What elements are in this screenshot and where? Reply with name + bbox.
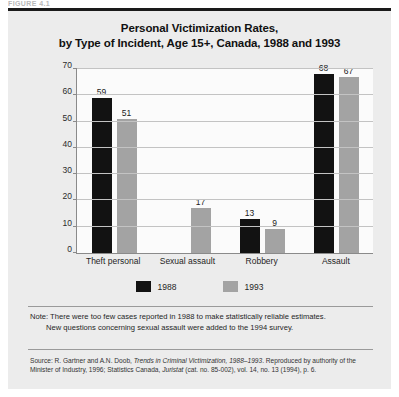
x-axis-label: Sexual assault [150,256,224,266]
chart-title: Personal Victimization Rates, by Type of… [8,21,391,51]
bar-1993[interactable]: 51 [117,119,137,253]
y-tick-mark [73,68,77,69]
chart-note: Note: There were too few cases reported … [30,312,374,333]
y-tick-mark [73,121,77,122]
y-tick-label: 30 [63,165,72,175]
y-tick-mark [73,252,77,253]
gridline [77,121,373,122]
x-axis-label: Assault [299,256,373,266]
chart-panel: Personal Victimization Rates, by Type of… [8,8,391,389]
y-tick-label: 50 [63,113,72,123]
y-tick-mark [73,94,77,95]
x-axis-label: Robbery [225,256,299,266]
chart-source: Source: R. Gartner and A.N. Doob, Trends… [30,356,378,374]
divider-above-note [28,306,373,307]
bar-value-label: 51 [122,108,131,118]
y-tick-label: 60 [63,86,72,96]
legend-item-1993[interactable]: 1993 [223,281,264,292]
gridline [77,68,373,69]
source-prefix: Source: R. Gartner and A.N. Doob, [30,357,134,364]
y-tick-label: 20 [63,191,72,201]
plot-area: Rate per 1000 population 5951171396867 0… [28,69,373,254]
source-suffix: (cat. no. 85-002), vol. 14, no. 13 (1994… [183,366,316,373]
y-tick-label: 40 [63,139,72,149]
legend-label: 1988 [158,282,177,292]
y-tick-mark [73,199,77,200]
bar-value-label: 59 [97,87,106,97]
y-tick-label: 10 [63,218,72,228]
figure-container: FIGURE 4.1 Personal Victimization Rates,… [0,0,399,397]
legend-item-1988[interactable]: 1988 [136,281,177,292]
bar-value-label: 9 [272,218,277,228]
gridline [77,199,373,200]
x-axis-labels: Theft personalSexual assaultRobberyAssau… [76,256,373,266]
legend-swatch [136,281,151,292]
bar-1993[interactable]: 9 [265,229,285,253]
bar-1993[interactable]: 17 [191,208,211,253]
source-title-2: Juristat [162,366,183,373]
gridline [77,147,373,148]
y-tick-mark [73,147,77,148]
figure-number-label: FIGURE 4.1 [8,0,50,6]
gridline [77,173,373,174]
chart-axes: 5951171396867 010203040506070 [76,69,373,254]
divider-above-source [28,349,373,350]
chart-note-line-1: Note: There were too few cases reported … [30,312,326,321]
x-axis-label: Theft personal [76,256,150,266]
legend-label: 1993 [245,282,264,292]
y-tick-label: 70 [63,60,72,70]
chart-title-line-2: by Type of Incident, Age 15+, Canada, 19… [8,36,391,51]
bar-value-label: 13 [245,208,254,218]
y-tick-mark [73,226,77,227]
chart-legend: 19881993 [8,281,391,292]
gridline [77,226,373,227]
legend-swatch [223,281,238,292]
bar-1988[interactable]: 13 [240,219,260,253]
y-tick-label: 0 [67,244,72,254]
y-tick-mark [73,173,77,174]
chart-title-line-1: Personal Victimization Rates, [8,21,391,36]
chart-note-line-2: New questions concerning sexual assault … [30,323,374,334]
gridline [77,94,373,95]
source-title-1: Trends in Criminal Victimization, 1988–1… [134,357,262,364]
